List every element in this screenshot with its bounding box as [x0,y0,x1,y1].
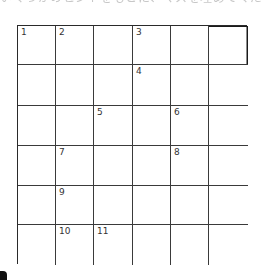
grid-cell-r2-c5[interactable] [209,106,248,146]
grid-cell-r2-c0[interactable] [18,106,56,146]
grid-cell-r1-c2[interactable] [94,65,133,106]
grid-cell-r1-c3[interactable]: 4 [133,65,171,106]
grid-cell-r2-c1[interactable] [56,106,94,146]
grid-cell-r0-c4[interactable] [171,26,209,65]
clipped-instruction-text: いくつかのヒントをもとに、マスを埋めてください。 [0,0,263,5]
crossword-grid: 1 2 3 4 5 6 7 8 9 10 11 [17,25,247,264]
clue-number: 10 [59,226,70,236]
grid-cell-r4-c0[interactable] [18,186,56,225]
grid-cell-r1-c1[interactable] [56,65,94,106]
grid-cell-r3-c3[interactable] [133,146,171,186]
grid-cell-r3-c0[interactable] [18,146,56,186]
clue-number: 2 [59,27,65,37]
grid-cell-r0-c0[interactable]: 1 [18,26,56,65]
grid-cell-r0-c1[interactable]: 2 [56,26,94,65]
grid-cell-r5-c1[interactable]: 10 [56,225,94,265]
grid-cell-r2-c4[interactable]: 6 [171,106,209,146]
grid-cell-r0-c2[interactable] [94,26,133,65]
clue-number: 8 [174,147,180,157]
grid-cell-r3-c4[interactable]: 8 [171,146,209,186]
grid-cell-r0-c5[interactable] [209,26,248,65]
clue-number: 7 [59,147,65,157]
grid-cell-r4-c3[interactable] [133,186,171,225]
clue-number: 1 [21,27,27,37]
grid-cell-r2-c2[interactable]: 5 [94,106,133,146]
clue-number: 11 [97,226,108,236]
grid-cell-r1-c4[interactable] [171,65,209,106]
grid-cell-r4-c4[interactable] [171,186,209,225]
clue-number: 4 [136,66,142,76]
grid-cell-r4-c5[interactable] [209,186,248,225]
grid-cell-r4-c1[interactable]: 9 [56,186,94,225]
grid-cell-r5-c2[interactable]: 11 [94,225,133,265]
clue-number: 3 [136,27,142,37]
clue-number: 6 [174,107,180,117]
grid-cell-r5-c4[interactable] [171,225,209,265]
grid-cell-r1-c0[interactable] [18,65,56,106]
grid-cell-r3-c1[interactable]: 7 [56,146,94,186]
clue-number: 5 [97,107,103,117]
grid-cell-r3-c2[interactable] [94,146,133,186]
grid-cell-r5-c0[interactable] [18,225,56,265]
grid-cell-r1-c5[interactable] [209,65,248,106]
clue-number: 9 [59,187,65,197]
grid-cell-r3-c5[interactable] [209,146,248,186]
grid-cell-r4-c2[interactable] [94,186,133,225]
grid-cell-r5-c3[interactable] [133,225,171,265]
grid-cell-r2-c3[interactable] [133,106,171,146]
grid-cell-r0-c3[interactable]: 3 [133,26,171,65]
grid-cell-r5-c5[interactable] [209,225,248,265]
bullet-marker-icon [0,271,7,280]
